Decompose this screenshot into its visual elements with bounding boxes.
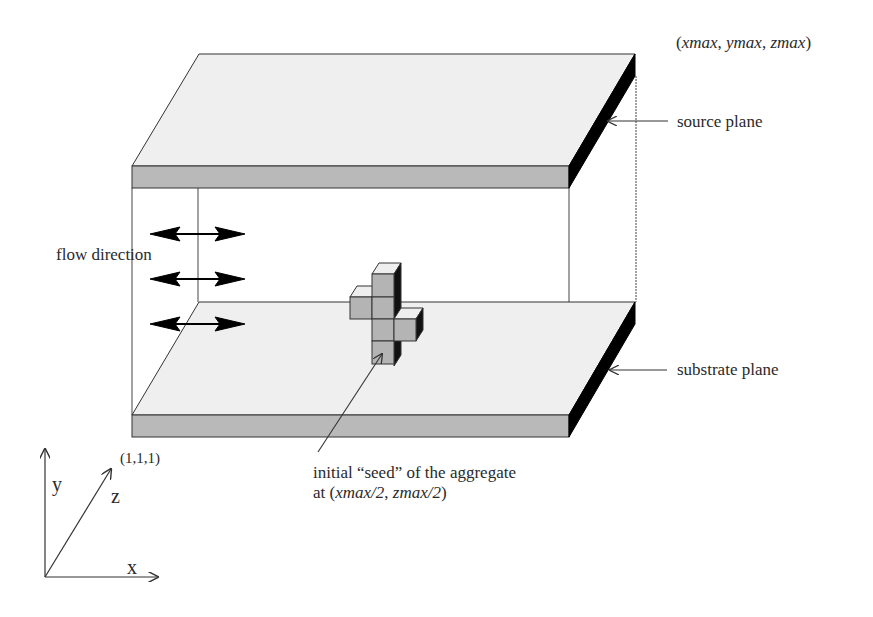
source-plane-label: source plane xyxy=(677,113,762,130)
source-plane xyxy=(132,54,635,188)
z-axis-label: z xyxy=(111,486,120,506)
substrate-plane-label: substrate plane xyxy=(677,361,779,378)
flow-direction-label: flow direction xyxy=(56,246,152,263)
seed-label-line1: initial “seed” of the aggregate xyxy=(313,464,516,481)
diagram-graphics xyxy=(0,0,873,617)
y-axis-label: y xyxy=(52,474,62,494)
seed-label-line2: at (xmax/2, zmax/2) xyxy=(313,484,447,501)
diagram-canvas: (xmax, ymax, zmax) source plane substrat… xyxy=(0,0,873,617)
coordinate-axes xyxy=(45,449,158,577)
x-axis-label: x xyxy=(127,557,137,577)
corner-max-label: (xmax, ymax, zmax) xyxy=(676,34,811,51)
corner-min-label: (1,1,1) xyxy=(120,451,160,466)
